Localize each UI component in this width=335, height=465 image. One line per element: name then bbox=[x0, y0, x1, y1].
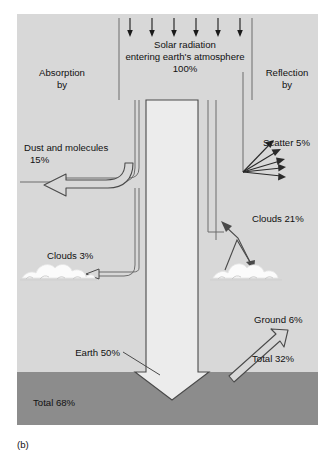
dust-label-line1: Dust and molecules bbox=[24, 142, 108, 153]
total-left-label: Total 68% bbox=[33, 397, 76, 408]
ground-label: Ground 6% bbox=[254, 314, 303, 325]
earth-beam-shape bbox=[135, 100, 209, 400]
earth-beam-arrow bbox=[135, 100, 209, 400]
figure-caption: (b) bbox=[17, 439, 29, 450]
absorption-heading-line1: Absorption bbox=[39, 67, 85, 78]
dust-label-line2: 15% bbox=[30, 154, 50, 165]
absorption-heading-line2: by bbox=[57, 79, 67, 90]
reflection-heading-line1: Reflection bbox=[266, 67, 309, 78]
earth-label: Earth 50% bbox=[75, 347, 120, 358]
title-line-1: Solar radiation bbox=[154, 39, 216, 50]
clouds-left-label: Clouds 3% bbox=[47, 250, 94, 261]
solar-radiation-diagram: Solar radiation entering earth's atmosph… bbox=[0, 0, 335, 465]
title-line-3: 100% bbox=[173, 63, 198, 74]
title-line-2: entering earth's atmosphere bbox=[125, 51, 244, 62]
reflection-heading-line2: by bbox=[282, 79, 292, 90]
scatter-label: Scatter 5% bbox=[263, 137, 310, 148]
clouds-right-label: Clouds 21% bbox=[252, 213, 304, 224]
total-right-label: Total 32% bbox=[252, 353, 295, 364]
